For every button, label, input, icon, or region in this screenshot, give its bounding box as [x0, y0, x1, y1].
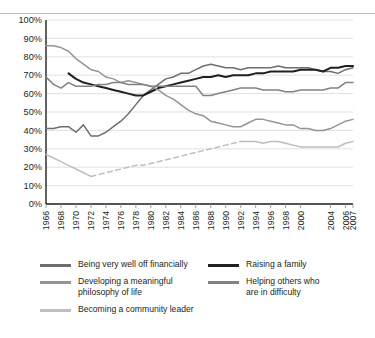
- y-tick-label: 80%: [24, 52, 42, 62]
- x-tick-label: 1982: [161, 211, 171, 230]
- series-line: [91, 141, 241, 176]
- legend-column-right: Raising a familyHelping others who are i…: [208, 259, 368, 304]
- legend-item-label: Developing a meaningful philosophy of li…: [78, 276, 173, 297]
- y-tick-label: 30%: [24, 144, 42, 154]
- y-tick-label: 70%: [24, 70, 42, 80]
- legend-item-label: Being very well off financially: [78, 259, 188, 269]
- y-tick-label: 0%: [29, 199, 42, 209]
- series-line: [46, 46, 353, 131]
- legend-item: Becoming a community leader: [40, 304, 200, 314]
- x-tick-label: 1968: [56, 211, 66, 230]
- x-tick-label: 1980: [146, 211, 156, 230]
- legend-line-swatch: [40, 309, 71, 312]
- legend-item-label: Helping others who are in difficulty: [246, 276, 320, 297]
- x-tick-label: 1986: [191, 211, 201, 230]
- legend-item: Raising a family: [208, 259, 368, 269]
- x-tick-label: 1998: [281, 211, 291, 230]
- data-series: [46, 46, 353, 177]
- legend-line-swatch: [208, 281, 239, 284]
- legend-line-swatch: [40, 281, 71, 284]
- y-tick-label: 90%: [24, 34, 42, 44]
- series-line: [68, 66, 353, 95]
- chart-figure: 0%10%20%30%40%50%60%70%80%90%100% 196619…: [0, 0, 375, 338]
- legend-item: Being very well off financially: [40, 259, 200, 269]
- x-tick-label: 1992: [236, 211, 246, 230]
- y-tick-label: 20%: [24, 162, 42, 172]
- x-tick-label: 2004: [326, 211, 336, 230]
- series-line: [46, 77, 353, 95]
- y-tick-label: 60%: [24, 89, 42, 99]
- legend-item-label: Becoming a community leader: [78, 304, 194, 314]
- x-tick-label: 1970: [71, 211, 81, 230]
- chart-legend: Being very well off financiallyDevelopin…: [40, 259, 370, 331]
- y-tick-label: 100%: [19, 15, 43, 25]
- x-tick-label: 1996: [266, 211, 276, 230]
- x-tick-label: 1966: [41, 211, 51, 230]
- legend-line-swatch: [208, 264, 239, 267]
- x-tick-label: 1994: [251, 211, 261, 230]
- x-tick-label: 1990: [221, 211, 231, 230]
- series-line: [241, 141, 353, 147]
- legend-item: Developing a meaningful philosophy of li…: [40, 276, 200, 297]
- x-tick-label: 1984: [176, 211, 186, 230]
- x-tick-label: 1988: [206, 211, 216, 230]
- x-axis-tick-labels: 1966196819701972197419761978198019821984…: [41, 211, 358, 230]
- legend-item: Helping others who are in difficulty: [208, 276, 368, 297]
- series-line: [46, 154, 91, 176]
- x-tick-label: 1976: [116, 211, 126, 230]
- line-chart: 0%10%20%30%40%50%60%70%80%90%100% 196619…: [0, 14, 375, 254]
- y-tick-label: 50%: [24, 107, 42, 117]
- x-tick-label: 1974: [101, 211, 111, 230]
- x-tick-label: 1972: [86, 211, 96, 230]
- x-tick-label: 1978: [131, 211, 141, 230]
- legend-column-left: Being very well off financiallyDevelopin…: [40, 259, 200, 322]
- x-tick-label: 2007: [348, 211, 358, 230]
- legend-item-label: Raising a family: [246, 259, 307, 269]
- x-tick-label: 2000: [296, 211, 306, 230]
- legend-line-swatch: [40, 264, 71, 267]
- y-tick-label: 40%: [24, 126, 42, 136]
- y-tick-label: 10%: [24, 181, 42, 191]
- y-axis-tick-labels: 0%10%20%30%40%50%60%70%80%90%100%: [19, 15, 43, 209]
